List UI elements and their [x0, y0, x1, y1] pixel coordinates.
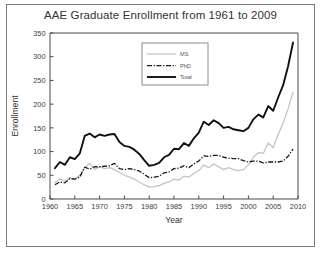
y-tick-label: 350 — [33, 29, 45, 38]
x-tick-label: 2000 — [240, 202, 256, 211]
x-axis-title: Year — [165, 215, 183, 225]
chart-legend[interactable]: MSPhDTotal — [142, 43, 208, 85]
x-tick-label: 1995 — [215, 202, 231, 211]
y-tick-label: 150 — [33, 124, 45, 133]
x-tick-label: 1985 — [166, 202, 182, 211]
y-tick-label: 200 — [33, 100, 45, 109]
x-tick-label: 2010 — [290, 202, 306, 211]
x-tick-label: 1960 — [42, 202, 58, 211]
y-tick-label: 250 — [33, 76, 45, 85]
legend-label-ms: MS — [180, 51, 189, 57]
series-line-ms — [55, 92, 293, 187]
y-tick-label: 300 — [33, 52, 45, 61]
x-tick-label: 2005 — [265, 202, 281, 211]
line-chart: 0501001502002503003501960196519701975198… — [0, 0, 323, 255]
x-tick-label: 1975 — [116, 202, 132, 211]
x-tick-label: 1990 — [191, 202, 207, 211]
plot-area: 0501001502002503003501960196519701975198… — [0, 0, 323, 255]
y-tick-label: 50 — [37, 171, 45, 180]
legend-label-total: Total — [180, 74, 192, 80]
x-tick-label: 1980 — [141, 202, 157, 211]
legend-label-phd: PhD — [180, 63, 191, 69]
y-axis-title: Enrollment — [10, 95, 20, 137]
x-tick-label: 1965 — [67, 202, 83, 211]
x-tick-label: 1970 — [91, 202, 107, 211]
y-tick-label: 100 — [33, 147, 45, 156]
figure-container: AAE Graduate Enrollment from 1961 to 200… — [0, 0, 323, 255]
